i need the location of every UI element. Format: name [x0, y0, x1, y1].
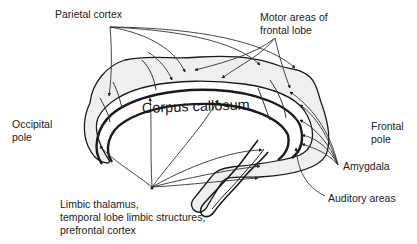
label-auditory-areas: Auditory areas — [328, 192, 396, 205]
label-limbic-line2: temporal lobe limbic structures, — [60, 211, 205, 224]
label-motor-areas-line2: frontal lobe — [260, 24, 312, 37]
label-occipital-pole-line1: Occipital — [12, 118, 52, 131]
label-motor-areas-line1: Motor areas of — [260, 11, 328, 24]
label-frontal-pole-line1: Frontal — [371, 120, 404, 133]
label-parietal-cortex: Parietal cortex — [55, 8, 122, 21]
label-limbic-line1: Limbic thalamus, — [60, 198, 139, 211]
label-frontal-pole-line2: pole — [371, 133, 391, 146]
label-limbic-line3: prefrontal cortex — [60, 224, 136, 237]
cingulate-gyrus-region — [84, 56, 329, 212]
cingulate-diagram: Corpus callosum Parietal cortex Motor ar… — [0, 0, 417, 244]
corpus-callosum-label: Corpus callosum — [142, 96, 250, 116]
label-amygdala: Amygdala — [343, 160, 390, 173]
label-occipital-pole-line2: pole — [12, 131, 32, 144]
